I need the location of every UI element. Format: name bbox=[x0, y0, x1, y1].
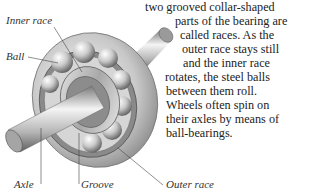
label-axle: Axle bbox=[14, 178, 34, 190]
text-line: their axles by means of bbox=[166, 112, 279, 126]
text-line: outer race stays still bbox=[182, 42, 279, 56]
text-line: Wheels often spin on bbox=[166, 98, 269, 112]
leader-outer-race bbox=[118, 148, 163, 185]
label-ball: Ball bbox=[6, 50, 24, 62]
label-groove: Groove bbox=[81, 178, 114, 190]
text-line: and the inner race bbox=[183, 56, 270, 70]
label-inner-race: Inner race bbox=[6, 14, 52, 26]
text-line: parts of the bearing are bbox=[175, 14, 287, 28]
text-line: two grooved collar-shaped bbox=[145, 0, 275, 14]
text-line: ball-bearings. bbox=[166, 126, 233, 140]
text-line: between them roll. bbox=[166, 84, 257, 98]
label-outer-race: Outer race bbox=[166, 178, 214, 190]
text-line: called races. As the bbox=[180, 28, 274, 42]
text-line: rotates, the steel balls bbox=[165, 70, 270, 84]
